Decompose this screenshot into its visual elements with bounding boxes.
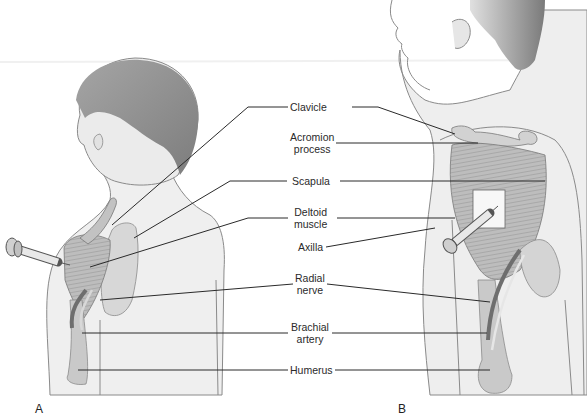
label-text: nerve: [295, 284, 325, 296]
label-clavicle: Clavicle: [288, 101, 329, 113]
label-text: Clavicle: [290, 101, 327, 113]
label-text: Acromion: [290, 131, 334, 143]
label-text: Humerus: [290, 364, 333, 376]
label-text: process: [290, 143, 334, 155]
anatomy-figure: Clavicle Acromion process Scapula Deltoi…: [0, 0, 587, 420]
label-text: Radial: [295, 272, 325, 284]
label-scapula: Scapula: [290, 175, 332, 187]
label-axilla: Axilla: [296, 241, 325, 253]
panel-label-b: B: [398, 402, 406, 416]
label-radial-nerve: Radial nerve: [293, 272, 327, 296]
panel-a-figure: [6, 58, 224, 395]
panel-b-figure: [390, 0, 587, 395]
panel-label-a: A: [35, 402, 43, 416]
label-text: muscle: [294, 218, 327, 230]
label-humerus: Humerus: [288, 364, 335, 376]
label-text: Brachial: [291, 321, 329, 333]
label-brachial-artery: Brachial artery: [289, 321, 331, 345]
label-text: Scapula: [292, 175, 330, 187]
label-acromion-process: Acromion process: [288, 131, 336, 155]
label-text: Axilla: [298, 241, 323, 253]
label-text: artery: [291, 333, 329, 345]
label-deltoid-muscle: Deltoid muscle: [292, 206, 329, 230]
label-text: Deltoid: [294, 206, 327, 218]
